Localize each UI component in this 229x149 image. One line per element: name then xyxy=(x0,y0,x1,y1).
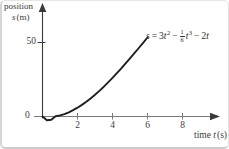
equation-term1: 3t2 xyxy=(159,31,170,41)
fraction-denominator: 6 xyxy=(180,37,185,44)
x-tick-label: 2 xyxy=(75,121,80,131)
equation-label: s = 3t2 − 16 t3 − 2t xyxy=(145,26,210,46)
equation-minus-2: − xyxy=(194,31,199,41)
term2-var: t xyxy=(186,31,189,41)
figure: position s(m) 50 0 2 4 6 8 time t(s) s =… xyxy=(0,0,229,149)
term3-var: t xyxy=(206,31,209,41)
equation-lhs: s xyxy=(146,31,150,41)
equation-minus-1: − xyxy=(172,31,177,41)
equation-equals: = xyxy=(152,31,157,41)
x-axis-arrow-icon xyxy=(210,113,220,121)
x-axis-label: time t(s) xyxy=(194,131,227,141)
y-tick-label-50: 50 xyxy=(21,37,36,47)
y-axis-label-line2: s(m) xyxy=(12,13,30,22)
equation-term2: t3 xyxy=(186,31,192,41)
y-axis-label-line1: position xyxy=(4,2,33,11)
y-axis-arrow-icon xyxy=(39,3,47,12)
x-tick-label: 8 xyxy=(180,121,185,131)
equation-fraction: 16 xyxy=(180,29,185,43)
origin-label: 0 xyxy=(25,111,30,121)
y-axis-variable: s xyxy=(12,12,16,22)
position-curve xyxy=(43,38,148,121)
x-axis-variable: t xyxy=(213,130,216,140)
x-axis-unit: (s) xyxy=(217,130,227,140)
equation-term3: 2t xyxy=(201,31,208,41)
x-tick-label: 6 xyxy=(145,121,150,131)
x-axis-word: time xyxy=(194,130,211,140)
y-axis-unit: (m) xyxy=(17,12,30,22)
term1-exponent: 2 xyxy=(167,29,170,36)
x-tick-label: 4 xyxy=(110,121,115,131)
term2-exponent: 3 xyxy=(189,29,192,36)
